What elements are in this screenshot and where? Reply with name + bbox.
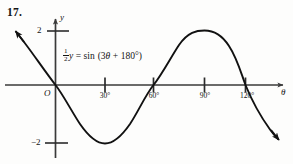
equation-close-paren: ) bbox=[139, 51, 142, 61]
equation-function-name: sin bbox=[84, 51, 95, 61]
y-tick-label-minus-2: −2 bbox=[31, 138, 41, 147]
curve-arrowhead-right bbox=[271, 130, 279, 140]
y-axis-label: y bbox=[60, 13, 64, 22]
one-half-fraction: 1 2 bbox=[63, 48, 69, 64]
problem-number-label: 17. bbox=[7, 7, 22, 19]
curve-arrowhead-left bbox=[16, 31, 25, 42]
y-tick-label-2: 2 bbox=[37, 26, 42, 35]
origin-label: O bbox=[44, 89, 51, 98]
graph-canvas bbox=[0, 0, 293, 164]
equation-annotation: 1 2 y = sin ( 3 θ + 180° ) bbox=[63, 48, 142, 64]
x-tick-label-120: 120° bbox=[240, 92, 254, 100]
x-tick-label-30: 30° bbox=[100, 92, 111, 100]
equation-plus: + bbox=[110, 51, 120, 61]
math-figure: 17. y θ O 2 −2 30° 60° 90° 120° 1 2 y = … bbox=[0, 0, 293, 164]
x-tick-label-90: 90° bbox=[200, 92, 211, 100]
equation-equals: = bbox=[73, 51, 83, 61]
equation-phase: 180° bbox=[121, 51, 139, 61]
theta-axis-label: θ bbox=[281, 88, 285, 97]
fraction-numerator: 1 bbox=[63, 48, 69, 55]
fraction-denominator: 2 bbox=[63, 55, 69, 63]
x-tick-label-60: 60° bbox=[149, 92, 160, 100]
